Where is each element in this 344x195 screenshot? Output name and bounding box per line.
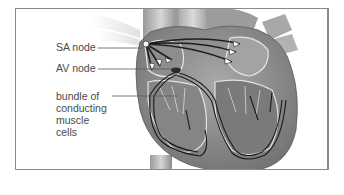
label-bundle-line2: conducting <box>56 103 107 114</box>
av-node-marker <box>171 68 181 73</box>
label-bundle-line1: bundle of <box>56 91 99 102</box>
label-sa-node: SA node <box>56 42 96 53</box>
label-bundle-line4: cells <box>56 127 77 138</box>
sa-node-marker <box>143 41 149 47</box>
label-av-node: AV node <box>56 63 96 74</box>
label-bundle-line3: muscle <box>56 115 89 126</box>
pulmonary-veins-left <box>92 14 140 46</box>
heart-illustration: JSL <box>0 0 344 195</box>
